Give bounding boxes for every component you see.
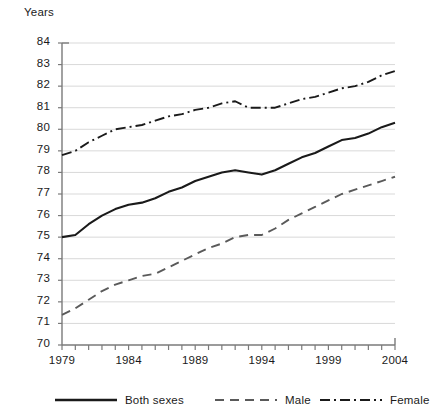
y-tick-label: 73 bbox=[24, 272, 50, 284]
y-tick-label: 80 bbox=[24, 121, 50, 133]
legend-item-both-sexes[interactable]: Both sexes bbox=[55, 388, 184, 412]
x-tick-label: 1979 bbox=[40, 354, 84, 366]
series-line-male bbox=[62, 177, 395, 315]
x-tick-label: 1994 bbox=[240, 354, 284, 366]
x-tick-label: 1984 bbox=[107, 354, 151, 366]
legend-label: Both sexes bbox=[125, 394, 184, 406]
y-tick-label: 77 bbox=[24, 186, 50, 198]
dashdot-line-swatch bbox=[320, 394, 382, 406]
x-tick-label: 1999 bbox=[306, 354, 350, 366]
y-tick-label: 74 bbox=[24, 251, 50, 263]
y-tick-label: 76 bbox=[24, 208, 50, 220]
legend-item-female[interactable]: Female bbox=[320, 388, 430, 412]
gridlines bbox=[62, 43, 395, 323]
series-line-both-sexes bbox=[62, 123, 395, 237]
legend-label: Male bbox=[285, 394, 311, 406]
x-tick-label: 2004 bbox=[373, 354, 417, 366]
x-tick-label: 1989 bbox=[173, 354, 217, 366]
y-tick-label: 83 bbox=[24, 57, 50, 69]
series-line-female bbox=[62, 71, 395, 155]
y-tick-label: 75 bbox=[24, 229, 50, 241]
life-expectancy-line-chart: Years 707172737475767778798081828384 197… bbox=[0, 0, 439, 420]
chart-legend: Both sexesMaleFemale bbox=[0, 388, 439, 416]
y-tick-label: 84 bbox=[24, 35, 50, 47]
y-tick-label: 71 bbox=[24, 315, 50, 327]
solid-line-swatch bbox=[55, 394, 117, 406]
y-tick-label: 70 bbox=[24, 337, 50, 349]
legend-item-male[interactable]: Male bbox=[215, 388, 311, 412]
x-axis-ticks bbox=[62, 345, 395, 350]
y-tick-label: 72 bbox=[24, 294, 50, 306]
dashed-line-swatch bbox=[215, 394, 277, 406]
legend-label: Female bbox=[390, 394, 430, 406]
y-tick-label: 81 bbox=[24, 100, 50, 112]
y-tick-label: 82 bbox=[24, 78, 50, 90]
y-tick-label: 78 bbox=[24, 164, 50, 176]
y-tick-label: 79 bbox=[24, 143, 50, 155]
